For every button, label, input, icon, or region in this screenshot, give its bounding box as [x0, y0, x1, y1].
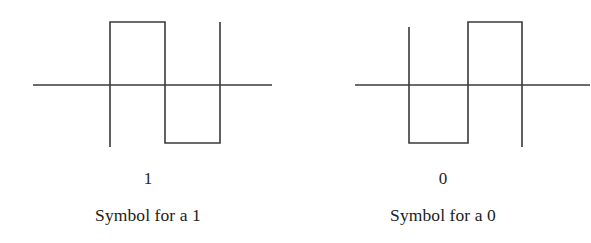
- symbol-panel-zero: 0 Symbol for a 0: [295, 0, 591, 243]
- caption-zero: Symbol for a 0: [295, 203, 591, 227]
- symbol-value-one: 1: [0, 168, 296, 190]
- symbol-panel-one: 1 Symbol for a 1: [0, 0, 296, 243]
- waveform-zero-svg: [295, 0, 591, 165]
- waveform-one-svg: [0, 0, 296, 165]
- waveform-zero: [295, 0, 591, 165]
- caption-one: Symbol for a 1: [0, 203, 296, 227]
- symbol-waveform-figure: 1 Symbol for a 1 0 Symbol for a 0: [0, 0, 591, 243]
- waveform-one: [0, 0, 296, 165]
- symbol-value-zero: 0: [295, 168, 591, 190]
